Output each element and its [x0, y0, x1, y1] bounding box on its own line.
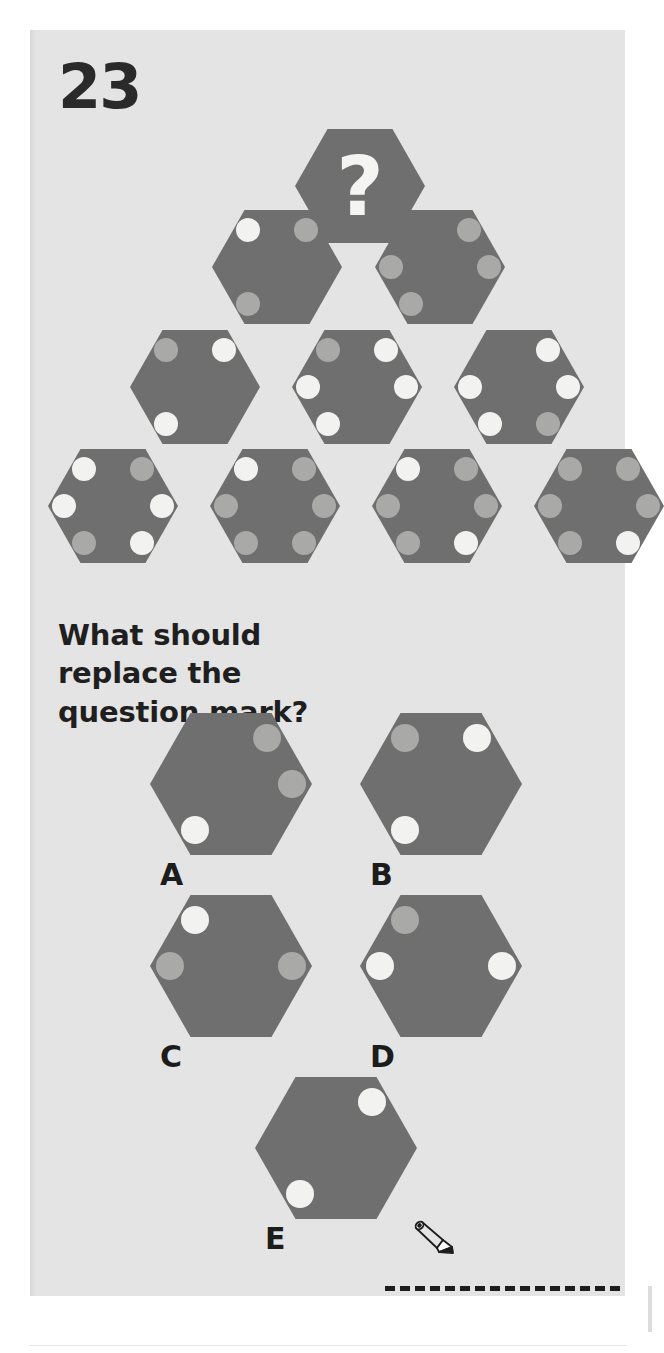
- hex-dot-top-right-gray: [294, 218, 318, 242]
- hex-dot-bottom-left-gray: [236, 292, 260, 316]
- hex-dot-bottom-left-gray: [72, 531, 96, 555]
- pyramid-hexagon-r3-2: [292, 330, 422, 444]
- hex-dot-bottom-left-gray: [234, 531, 258, 555]
- hex-dot-mid-right-white: [488, 952, 516, 980]
- hex-dot-top-left-white: [396, 457, 420, 481]
- hex-dot-top-right-gray: [292, 457, 316, 481]
- hex-dot-mid-left-white: [296, 375, 320, 399]
- page-right-margin-mark: [648, 1286, 652, 1332]
- hex-dot-mid-left-white: [52, 494, 76, 518]
- answer-write-in-line[interactable]: [385, 1286, 620, 1291]
- hex-dot-bottom-right-gray: [536, 412, 560, 436]
- hex-dot-mid-right-white: [394, 375, 418, 399]
- hex-dot-top-left-gray: [154, 338, 178, 362]
- option-hexagon-E: [255, 1077, 417, 1219]
- hex-dot-bottom-left-gray: [399, 292, 423, 316]
- pyramid-hexagon-r4-2: [210, 449, 340, 563]
- hex-dot-mid-left-gray: [376, 494, 400, 518]
- hex-dot-top-right-white: [536, 338, 560, 362]
- hex-dot-bottom-right-white: [616, 531, 640, 555]
- option-hexagon-B: [360, 713, 522, 855]
- hex-dot-bottom-left-white: [316, 412, 340, 436]
- hex-dot-top-left-gray: [391, 906, 419, 934]
- hex-dot-mid-left-white: [458, 375, 482, 399]
- page-edge-shading: [30, 30, 36, 1296]
- hex-dot-mid-right-white: [556, 375, 580, 399]
- pyramid-hexagon-r4-4: [534, 449, 664, 563]
- hex-dot-top-right-gray: [454, 457, 478, 481]
- option-hexagon-A: [150, 713, 312, 855]
- hex-dot-bottom-left-white: [286, 1180, 314, 1208]
- option-label-E[interactable]: E: [265, 1221, 286, 1256]
- hex-dot-top-right-white: [358, 1088, 386, 1116]
- hex-dot-mid-right-gray: [474, 494, 498, 518]
- option-label-C[interactable]: C: [160, 1039, 182, 1074]
- pencil-icon: [412, 1218, 458, 1258]
- hex-dot-top-right-white: [374, 338, 398, 362]
- hex-dot-bottom-left-white: [154, 412, 178, 436]
- hex-dot-bottom-left-white: [391, 816, 419, 844]
- puzzle-number: 23: [58, 56, 140, 118]
- hex-dot-mid-right-white: [150, 494, 174, 518]
- hex-dot-top-right-gray: [130, 457, 154, 481]
- hex-dot-top-right-white: [212, 338, 236, 362]
- hex-dot-top-right-gray: [253, 724, 281, 752]
- option-hexagon-C: [150, 895, 312, 1037]
- hex-dot-bottom-left-white: [478, 412, 502, 436]
- option-hexagon-D: [360, 895, 522, 1037]
- pyramid-hexagon-r4-1: [48, 449, 178, 563]
- option-label-B[interactable]: B: [370, 857, 393, 892]
- hex-dot-bottom-left-white: [181, 816, 209, 844]
- hex-dot-mid-right-gray: [278, 952, 306, 980]
- hex-dot-top-left-gray: [316, 338, 340, 362]
- hex-dot-top-right-white: [463, 724, 491, 752]
- hex-dot-top-right-gray: [616, 457, 640, 481]
- hex-dot-mid-left-gray: [538, 494, 562, 518]
- hex-dot-top-left-white: [234, 457, 258, 481]
- hex-dot-mid-left-gray: [379, 255, 403, 279]
- hex-dot-mid-right-gray: [636, 494, 660, 518]
- option-label-A[interactable]: A: [160, 857, 183, 892]
- hex-dot-mid-right-gray: [278, 770, 306, 798]
- hex-dot-bottom-left-gray: [396, 531, 420, 555]
- pyramid-hexagon-r4-3: [372, 449, 502, 563]
- hex-dot-top-right-gray: [457, 218, 481, 242]
- hex-dot-top-left-gray: [391, 724, 419, 752]
- hex-dot-top-left-gray: [558, 457, 582, 481]
- hex-dot-bottom-left-gray: [558, 531, 582, 555]
- hex-dot-top-left-white: [236, 218, 260, 242]
- pyramid-hexagon-r3-1: [130, 330, 260, 444]
- hex-dot-mid-right-gray: [312, 494, 336, 518]
- hex-dot-bottom-right-gray: [292, 531, 316, 555]
- pyramid-hexagon-r3-3: [454, 330, 584, 444]
- hex-dot-top-left-white: [72, 457, 96, 481]
- hex-dot-mid-left-gray: [214, 494, 238, 518]
- hex-dot-mid-left-gray: [156, 952, 184, 980]
- puzzle-page: 23 ? What should replace the question ma…: [30, 30, 625, 1296]
- hex-dot-mid-left-white: [366, 952, 394, 980]
- hex-dot-bottom-right-white: [130, 531, 154, 555]
- hex-dot-mid-right-gray: [477, 255, 501, 279]
- hex-dot-bottom-right-white: [454, 531, 478, 555]
- option-label-D[interactable]: D: [370, 1039, 395, 1074]
- page-bottom-rule: [30, 1345, 626, 1346]
- hex-dot-top-left-white: [181, 906, 209, 934]
